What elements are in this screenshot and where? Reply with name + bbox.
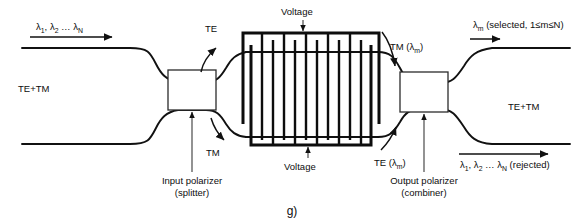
tunable-filter-diagram: λ1, λ2 … λN TE+TM TE TM Voltage Voltage …: [0, 0, 584, 223]
arrow-tm-lower: [211, 118, 224, 140]
te-selected-label: TE (λm): [374, 157, 406, 170]
waveguide-grating-to-combiner-lower: [378, 109, 428, 137]
electrode-bus-bottom: [251, 45, 371, 145]
output-mode-label: TE+TM: [508, 101, 539, 112]
te-mode-label: TE: [205, 23, 217, 34]
waveguide-input-lower: [22, 110, 196, 144]
output-rejected-label: λ1, λ2 … λN (rejected): [460, 159, 550, 172]
input-mode-label: TE+TM: [18, 83, 49, 94]
output-polarizer-box: [400, 72, 448, 112]
figure-container: λ1, λ2 … λN TE+TM TE TM Voltage Voltage …: [0, 0, 584, 223]
input-wavelengths-label: λ1, λ2 … λN: [36, 21, 83, 34]
waveguide-output-upper: [428, 48, 570, 83]
input-polarizer-label-line2: (splitter): [175, 187, 209, 198]
arrow-te-upper: [201, 48, 216, 72]
electrode-bus-top: [243, 33, 379, 124]
figure-caption: g): [287, 204, 298, 218]
output-polarizer-label-line2: (combiner): [401, 187, 446, 198]
arrow-te-selected: [381, 127, 396, 150]
tm-mode-label: TM: [206, 147, 220, 158]
voltage-bottom-label: Voltage: [284, 161, 316, 172]
input-polarizer-label-line1: Input polarizer: [162, 175, 222, 186]
output-selected-label: λm (selected, 1≤m≤N): [473, 19, 564, 32]
waveguide-output-lower: [428, 109, 570, 144]
electrode-fingers-top: [262, 33, 350, 140]
voltage-top-label: Voltage: [281, 6, 313, 17]
input-polarizer-box: [168, 70, 216, 110]
output-polarizer-label-line1: Output polarizer: [390, 175, 458, 186]
electrode-fingers-bottom: [273, 40, 361, 145]
tm-selected-label: TM (λm): [390, 41, 423, 54]
